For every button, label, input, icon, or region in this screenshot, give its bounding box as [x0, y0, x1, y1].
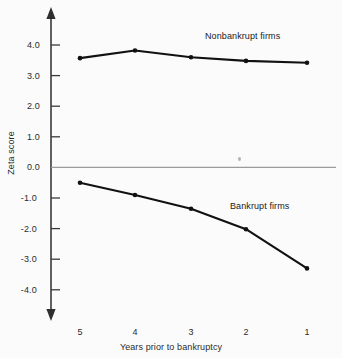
data-point [133, 48, 138, 53]
x-tick-label-5: 5 [70, 327, 90, 337]
y-tick-label-0: 0.0 [14, 162, 40, 172]
x-axis-title: Years prior to bankruptcy [0, 342, 342, 352]
y-tick-label-neg1: -1.0 [11, 193, 37, 203]
chart-plot-area [0, 0, 342, 358]
y-tick-label-1: 1.0 [14, 132, 40, 142]
series-label-bankrupt-firms: Bankrupt firms [230, 201, 289, 211]
series-line-nonbankrupt-firms [80, 51, 307, 63]
y-tick-label-4: 4.0 [14, 40, 40, 50]
data-point [189, 55, 194, 60]
y-axis-bottom-arrow-icon [46, 309, 55, 321]
y-tick-label-2: 2.0 [14, 101, 40, 111]
data-point [189, 206, 194, 211]
x-tick-label-3: 3 [181, 327, 201, 337]
series-label-nonbankrupt-firms: Nonbankrupt firms [205, 31, 280, 41]
data-point [78, 180, 83, 185]
data-point [78, 56, 83, 61]
data-point [133, 193, 138, 198]
y-tick-label-neg3: -3.0 [11, 254, 37, 264]
y-axis-top-arrow-icon [46, 7, 55, 19]
zeta-score-line-chart: 4.0 3.0 2.0 1.0 0.0 -1.0 -2.0 -3.0 -4.0 … [0, 0, 342, 358]
series-points-bankrupt-firms [78, 180, 310, 270]
y-tick-label-neg2: -2.0 [11, 224, 37, 234]
y-axis-title: Zeta score [6, 118, 16, 188]
data-point [305, 60, 310, 65]
x-tick-label-4: 4 [125, 327, 145, 337]
y-tick-label-3: 3.0 [14, 71, 40, 81]
x-tick-label-2: 2 [236, 327, 256, 337]
data-point [244, 227, 249, 232]
data-point [244, 59, 249, 64]
data-point [305, 266, 310, 271]
series-line-bankrupt-firms [80, 183, 307, 269]
scan-artifact-speck [238, 157, 241, 161]
x-tick-label-1: 1 [297, 327, 317, 337]
y-tick-label-neg4: -4.0 [11, 285, 37, 295]
